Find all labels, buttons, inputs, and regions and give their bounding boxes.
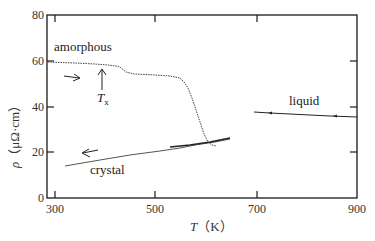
y-axis-title: ρ（μΩ·cm） (8, 99, 21, 168)
label-tx: Tx (97, 91, 109, 104)
x-axis-title: T（K） (190, 220, 233, 233)
arrow-up-icon (98, 69, 106, 90)
x-tick-300: 300 (40, 203, 70, 215)
series-crystal-heavy (170, 138, 230, 147)
y-axis-symbol: ρ (7, 162, 22, 168)
label-crystal: crystal (90, 163, 125, 176)
label-amorphous: amorphous (54, 40, 112, 53)
label-tx-sub: x (104, 97, 109, 107)
y-tick-60: 60 (18, 55, 44, 67)
label-liquid: liquid (289, 94, 319, 107)
arrow-left-icon (82, 149, 98, 157)
x-tick-500: 500 (140, 203, 170, 215)
series-amorphous (48, 62, 216, 146)
y-tick-80: 80 (18, 9, 44, 21)
x-tick-700: 700 (242, 203, 272, 215)
x-axis-unit: （K） (197, 219, 232, 234)
x-tick-900: 900 (342, 203, 372, 215)
arrow-right-icon (64, 74, 80, 81)
y-axis-unit: （μΩ·cm） (7, 99, 22, 162)
